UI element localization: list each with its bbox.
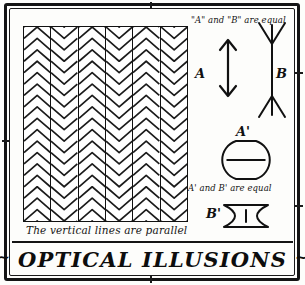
- frame-tick-bottom: [150, 276, 152, 283]
- frame-tick-right: [295, 72, 303, 74]
- chevron-column-strokes-1: [24, 27, 50, 221]
- title-text: OPTICAL ILLUSIONS: [18, 247, 287, 272]
- chevron-column-strokes-2: [51, 27, 77, 221]
- circle-with-diameter-icon: [225, 139, 267, 181]
- chevron-column-strokes-6: [161, 27, 187, 221]
- optical-illusions-plate: The vertical lines are parallel "A" and …: [0, 0, 305, 285]
- chevron-column-strokes-4: [106, 27, 132, 221]
- bowtie-figure: [222, 203, 270, 229]
- frame-tick-right-lower: [295, 205, 303, 207]
- plate-title: ~ OPTICAL ILLUSIONS ~: [14, 244, 291, 274]
- figure-a-label: A: [195, 66, 205, 81]
- chevron-column: [24, 27, 51, 221]
- frame-tick-left: [2, 140, 10, 142]
- chevron-column: [106, 27, 133, 221]
- title-flourish-right-icon: ~: [295, 248, 305, 266]
- circle-figure: [225, 139, 267, 181]
- title-flourish-left-icon: ~: [0, 248, 10, 266]
- arrow-inward-heads-icon: [213, 38, 243, 98]
- figure-b-prime-label: B': [206, 206, 221, 221]
- muller-lyer-figure-a: [213, 38, 243, 98]
- chevron-column: [161, 27, 187, 221]
- bowtie-with-bar-icon: [222, 203, 270, 229]
- zollner-caption: The vertical lines are parallel: [26, 224, 196, 236]
- chevron-column: [79, 27, 106, 221]
- chevron-column-strokes-3: [79, 27, 105, 221]
- figure-b-label: B: [276, 66, 287, 81]
- zollner-illusion-panel: [23, 26, 188, 222]
- chevron-column: [51, 27, 78, 221]
- figure-a-prime-label: A': [236, 124, 250, 139]
- chevron-column: [133, 27, 160, 221]
- frame-tick-top: [150, 2, 152, 9]
- circle-bowtie-note: A' and B' are equal: [188, 183, 272, 193]
- chevron-column-strokes-5: [133, 27, 159, 221]
- title-divider-rule: [12, 241, 293, 243]
